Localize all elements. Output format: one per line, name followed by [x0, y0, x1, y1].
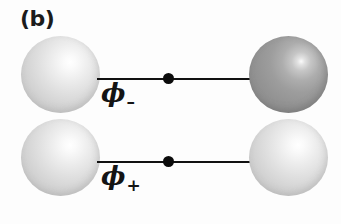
- orbital-subscript: –: [126, 92, 135, 112]
- orbital-label-phi-plus: ϕ+: [101, 163, 141, 194]
- bond-midpoint-dot: [163, 73, 174, 84]
- orbital-label-phi-minus: ϕ–: [101, 80, 135, 111]
- left-atom-sphere: [21, 36, 100, 113]
- panel-label: (b): [20, 8, 54, 30]
- orbital-row-phi-plus: [0, 119, 341, 207]
- right-atom-sphere: [249, 36, 328, 113]
- orbital-subscript: +: [126, 175, 140, 195]
- right-atom-sphere: [249, 119, 328, 196]
- orbital-row-phi-minus: [0, 36, 341, 124]
- figure-panel-b: (b) ϕ– ϕ+: [0, 0, 341, 224]
- left-atom-sphere: [21, 119, 100, 196]
- orbital-symbol: ϕ: [101, 161, 125, 191]
- bond-midpoint-dot: [163, 156, 174, 167]
- orbital-symbol: ϕ: [101, 78, 125, 108]
